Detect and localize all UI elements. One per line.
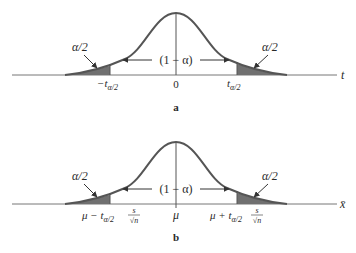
left-critical-main: μ − t xyxy=(81,209,104,221)
left-tail-label: α/2 xyxy=(72,40,88,54)
middle-label: (1 − α) xyxy=(159,182,192,196)
right-tail-label: α/2 xyxy=(262,169,278,183)
right-tail-arrow xyxy=(254,55,268,68)
panel-a-caption: a xyxy=(173,101,179,113)
left-critical-label: −tα/2 xyxy=(97,77,118,92)
left-frac-den: √n xyxy=(130,216,138,225)
right-tail-label: α/2 xyxy=(262,40,278,54)
left-critical-label: μ − tα/2 xyxy=(81,209,114,224)
left-critical-sub: α/2 xyxy=(107,83,117,92)
center-label-zero: 0 xyxy=(173,78,179,90)
axis-label-xbar: x̄ xyxy=(339,197,346,211)
panel-a: α/2 α/2 (1 − α) t 0 −tα/2 tα/2 a xyxy=(12,13,345,113)
right-critical-label: μ + tα/2 xyxy=(209,209,242,224)
center-label-mu: μ xyxy=(172,208,179,222)
t-distribution-diagram: α/2 α/2 (1 − α) t 0 −tα/2 tα/2 a α/2 α/2… xyxy=(0,0,356,253)
left-tail-arrow xyxy=(84,55,97,68)
middle-label: (1 − α) xyxy=(159,53,192,67)
axis-label-t: t xyxy=(341,68,345,82)
right-frac-den: √n xyxy=(253,216,261,225)
right-critical-sub: α/2 xyxy=(230,83,240,92)
right-tail-arrow xyxy=(254,184,268,197)
right-critical-main: μ + t xyxy=(209,209,232,221)
panel-b: α/2 α/2 (1 − α) x̄ μ μ − tα/2 s √n μ + t… xyxy=(12,142,346,243)
right-critical-sub: α/2 xyxy=(232,215,242,224)
right-critical-label: tα/2 xyxy=(227,77,240,92)
panel-b-caption: b xyxy=(173,231,179,243)
left-tail-label: α/2 xyxy=(72,169,88,183)
right-frac-num: s xyxy=(255,206,258,215)
left-critical-sub: α/2 xyxy=(104,215,114,224)
left-tail-arrow xyxy=(84,184,97,197)
left-frac-num: s xyxy=(132,206,135,215)
